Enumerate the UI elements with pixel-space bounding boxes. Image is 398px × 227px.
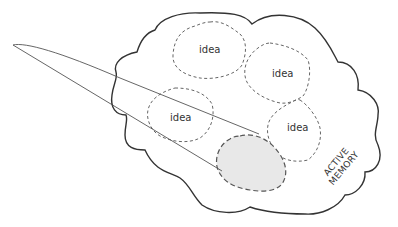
focus-region [217, 135, 286, 191]
attention-beam-upper [13, 44, 259, 134]
attention-beam-lower [13, 45, 222, 171]
diagram-canvas [0, 0, 398, 227]
idea-label: idea [199, 44, 220, 55]
idea-label: idea [287, 122, 308, 133]
idea-label: idea [272, 68, 293, 79]
idea-label: idea [170, 112, 191, 123]
